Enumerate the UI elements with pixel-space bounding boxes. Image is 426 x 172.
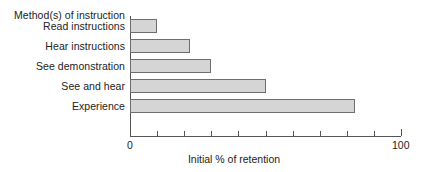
category-label: Read instructions (43, 20, 130, 32)
retention-bar-chart: Method(s) of instruction Read instructio… (0, 0, 426, 172)
x-axis-title: Initial % of retention (0, 153, 426, 165)
x-axis-tick-label: 0 (127, 139, 133, 151)
x-axis-tick (238, 131, 239, 136)
category-label: See and hear (61, 80, 130, 92)
category-label: Hear instructions (45, 40, 130, 52)
category-label: See demonstration (36, 60, 130, 72)
x-axis-tick (184, 131, 185, 136)
bar (130, 99, 355, 113)
x-axis-tick (266, 131, 267, 136)
x-axis-tick-label: 100 (392, 139, 410, 151)
y-axis-line (130, 16, 131, 136)
x-axis-tick (157, 131, 158, 136)
x-axis-tick (130, 129, 131, 136)
x-axis-tick (401, 129, 402, 136)
bar (130, 19, 157, 33)
bar (130, 59, 211, 73)
plot-area (130, 16, 401, 136)
x-axis-line (130, 136, 401, 137)
x-axis-tick (293, 131, 294, 136)
x-axis-tick (211, 131, 212, 136)
x-axis-tick (320, 131, 321, 136)
category-label: Experience (72, 100, 130, 112)
bar (130, 79, 266, 93)
x-axis-tick (347, 131, 348, 136)
bar (130, 39, 190, 53)
x-axis-tick (374, 131, 375, 136)
